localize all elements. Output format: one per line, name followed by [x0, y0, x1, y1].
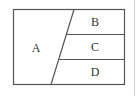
- slanted-divider: [51, 10, 74, 85]
- region-label-b: B: [91, 15, 99, 29]
- outer-rectangle: [14, 10, 125, 85]
- region-label-c: C: [91, 40, 99, 54]
- partition-diagram: A B C D: [0, 0, 137, 96]
- region-label-a: A: [32, 41, 41, 55]
- region-label-d: D: [91, 65, 100, 79]
